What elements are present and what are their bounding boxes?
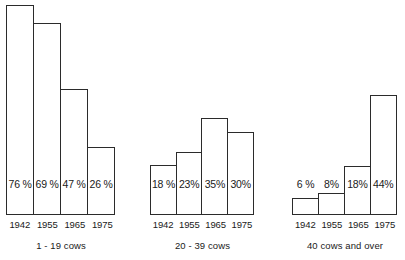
bar-value-label: 69 % <box>34 179 60 190</box>
bar-1942: 76 % <box>6 5 34 215</box>
x-axis-labels-group-1: 1942 1955 1965 1975 <box>6 219 116 230</box>
x-tick-1942: 1942 <box>292 219 319 230</box>
x-tick-1965: 1965 <box>203 219 229 230</box>
x-tick-1955: 1955 <box>319 219 346 230</box>
bar-1942: 18 % <box>150 165 177 215</box>
bar-1942: 6 % <box>292 198 319 215</box>
group-caption-40-cows-and-over: 40 cows and over <box>292 240 398 251</box>
bar-value-label: 35% <box>202 179 227 190</box>
bar-value-label: 18 % <box>151 179 176 190</box>
bar-1955: 69 % <box>33 23 61 215</box>
x-tick-1975: 1975 <box>229 219 255 230</box>
bar-1975: 44% <box>370 95 397 215</box>
bar-value-label: 44% <box>371 179 396 190</box>
group-caption-20-39-cows: 20 - 39 cows <box>150 240 255 251</box>
bar-value-label: 47 % <box>61 179 87 190</box>
bar-series-group-2: 18 % 23% 35% 30% <box>150 0 254 215</box>
bar-1965: 47 % <box>60 89 88 215</box>
bar-1965: 35% <box>201 118 228 215</box>
bar-1975: 26 % <box>87 147 115 215</box>
x-tick-1955: 1955 <box>176 219 202 230</box>
x-tick-1955: 1955 <box>34 219 62 230</box>
group-caption-1-19-cows: 1 - 19 cows <box>6 240 116 251</box>
chart-group-1-19-cows: 76 % 69 % 47 % 26 % 1942 1955 1965 1975 … <box>6 0 116 260</box>
bar-1965: 18% <box>344 166 371 215</box>
bar-value-label: 18% <box>345 179 370 190</box>
x-tick-1965: 1965 <box>345 219 372 230</box>
bar-1955: 8% <box>318 193 345 215</box>
bar-series-group-1: 76 % 69 % 47 % 26 % <box>6 0 115 215</box>
bar-value-label: 30% <box>228 179 253 190</box>
x-axis-labels-group-2: 1942 1955 1965 1975 <box>150 219 255 230</box>
x-tick-1942: 1942 <box>6 219 34 230</box>
bar-value-label: 23% <box>177 179 202 190</box>
chart-group-40-cows-and-over: 6 % 8% 18% 44% 1942 1955 1965 1975 40 co… <box>292 0 398 260</box>
x-tick-1965: 1965 <box>61 219 89 230</box>
bar-series-group-3: 6 % 8% 18% 44% <box>292 0 397 215</box>
bar-value-label: 6 % <box>293 179 318 190</box>
bar-1975: 30% <box>227 132 254 215</box>
x-tick-1942: 1942 <box>150 219 176 230</box>
bar-value-label: 8% <box>319 179 344 190</box>
bar-value-label: 76 % <box>7 179 33 190</box>
x-tick-1975: 1975 <box>89 219 117 230</box>
bar-value-label: 26 % <box>88 179 114 190</box>
x-tick-1975: 1975 <box>372 219 399 230</box>
chart-group-20-39-cows: 18 % 23% 35% 30% 1942 1955 1965 1975 20 … <box>150 0 255 260</box>
bar-chart-figure: 76 % 69 % 47 % 26 % 1942 1955 1965 1975 … <box>0 0 405 260</box>
x-axis-labels-group-3: 1942 1955 1965 1975 <box>292 219 398 230</box>
bar-1955: 23% <box>176 152 203 215</box>
